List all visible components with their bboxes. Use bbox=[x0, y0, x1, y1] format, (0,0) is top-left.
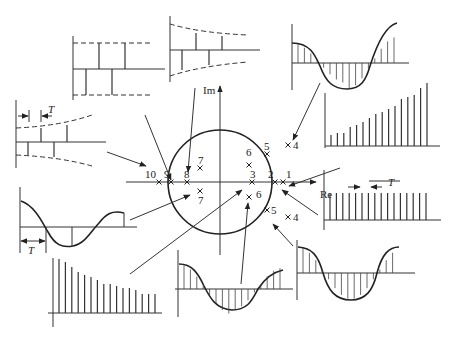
response-sampled-cosine: T bbox=[20, 187, 137, 256]
pole-label: 2 bbox=[268, 168, 274, 180]
pole-label: 4 bbox=[293, 211, 299, 223]
pole-marker: 6 bbox=[247, 188, 263, 200]
pole-marker: 7 bbox=[198, 189, 205, 207]
response-alternating-growing: T bbox=[16, 100, 106, 168]
imag-axis-label: Im bbox=[203, 84, 216, 96]
response-growing-oscillation bbox=[292, 23, 409, 90]
response-decaying-oscillation bbox=[175, 250, 293, 317]
pole-label: 3 bbox=[250, 168, 256, 180]
pole-marker: 6 bbox=[246, 146, 252, 168]
response-alternating-decaying bbox=[170, 16, 260, 82]
response-constant-sequence: T bbox=[324, 170, 441, 230]
pole-label: 1 bbox=[286, 168, 292, 180]
response-growing-sequence bbox=[325, 83, 440, 148]
pole-location-diagram: Re Im 123445566778910 bbox=[0, 0, 454, 339]
response-decaying-sequence bbox=[48, 258, 162, 327]
pole-label: 4 bbox=[293, 139, 299, 151]
pole-label: 5 bbox=[271, 204, 277, 216]
response-alternating-constant bbox=[73, 36, 165, 100]
period-label-2: T bbox=[28, 244, 35, 256]
pole-label: 8 bbox=[184, 168, 190, 180]
z-plane: Re Im bbox=[126, 84, 332, 255]
pole-marker: 4 bbox=[286, 139, 300, 151]
pole-label: 6 bbox=[246, 146, 252, 158]
period-label: T bbox=[48, 103, 55, 115]
pole-marker: 7 bbox=[198, 154, 205, 171]
response-constant-oscillation bbox=[297, 240, 415, 300]
pole-label: 7 bbox=[198, 194, 204, 206]
pole-label: 10 bbox=[145, 168, 157, 180]
period-label-3: T bbox=[388, 176, 395, 188]
pole-marker: 5 bbox=[264, 140, 270, 157]
pole-label: 6 bbox=[256, 188, 262, 200]
pole-marker: 4 bbox=[286, 211, 300, 223]
pole-label: 5 bbox=[264, 140, 270, 152]
pole-label: 7 bbox=[198, 154, 204, 166]
pointer-arrows bbox=[107, 83, 340, 284]
